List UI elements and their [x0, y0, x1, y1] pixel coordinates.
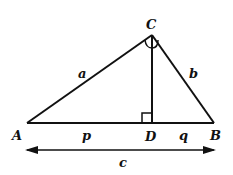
arrowhead-right-icon — [203, 146, 216, 154]
vertex-label-a: A — [10, 128, 22, 143]
side-a-line — [27, 35, 152, 123]
side-label-a: a — [78, 66, 86, 81]
side-label-q: q — [179, 128, 188, 143]
right-angle-marker-d — [142, 113, 152, 123]
side-label-c: c — [119, 155, 127, 170]
right-angle-arc-c-left — [145, 40, 152, 48]
vertex-label-c: C — [146, 17, 157, 32]
vertex-label-b: B — [209, 128, 221, 143]
arrowhead-left-icon — [25, 146, 38, 154]
vertex-label-d: D — [144, 129, 157, 144]
side-label-p: p — [82, 128, 91, 143]
triangle-diagram: C A B D a b p q c — [0, 0, 233, 175]
side-label-b: b — [189, 66, 198, 81]
side-b-line — [152, 35, 214, 123]
